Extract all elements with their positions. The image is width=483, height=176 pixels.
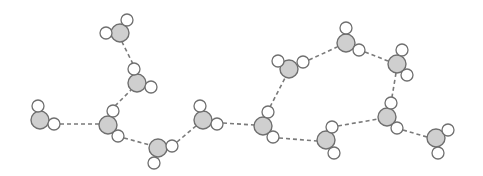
water-molecule-m12 xyxy=(317,121,340,159)
hydrogen-atom xyxy=(107,105,119,117)
water-molecule-m11 xyxy=(378,97,403,134)
hydrogen-atom xyxy=(267,131,279,143)
hydrogen-atom xyxy=(194,100,206,112)
hydrogen-atom xyxy=(353,44,365,56)
hydrogen-atom xyxy=(442,124,454,136)
oxygen-atom xyxy=(337,34,355,52)
hydrogen-atom xyxy=(262,106,274,118)
hydrogen-atom xyxy=(396,44,408,56)
hydrogen-atom xyxy=(326,121,338,133)
water-molecule-m1 xyxy=(31,100,60,130)
hydrogen-atom xyxy=(32,100,44,112)
water-molecule-m5 xyxy=(148,139,178,169)
water-molecule-m10 xyxy=(388,44,413,81)
oxygen-atom xyxy=(111,24,129,42)
oxygen-atom xyxy=(194,111,212,129)
hydrogen-bond-line xyxy=(365,52,388,61)
hydrogen-atom xyxy=(121,14,133,26)
oxygen-atom xyxy=(317,131,335,149)
hydrogen-atom xyxy=(328,147,340,159)
hydrogen-atom xyxy=(297,56,309,68)
oxygen-atom xyxy=(149,139,167,157)
hydrogen-atom xyxy=(100,27,112,39)
hydrogen-atom xyxy=(145,81,157,93)
water-molecule-m8 xyxy=(272,55,309,78)
water-molecule-m7 xyxy=(254,106,279,143)
hydrogen-atom xyxy=(211,118,223,130)
water-molecule-m4 xyxy=(100,14,133,42)
hydrogen-atom xyxy=(166,140,178,152)
water-molecule-m13 xyxy=(427,124,454,159)
water-molecule-m3 xyxy=(128,63,157,93)
hydrogen-bond-line xyxy=(223,123,254,125)
hydrogen-atom xyxy=(391,122,403,134)
hydrogen-atom xyxy=(432,147,444,159)
hydrogen-atom xyxy=(128,63,140,75)
oxygen-atom xyxy=(128,74,146,92)
water-molecule-m9 xyxy=(337,22,365,56)
water-molecule-m2 xyxy=(99,105,124,142)
hydrogen-atom xyxy=(112,130,124,142)
hydrogen-bond-line xyxy=(270,78,285,107)
hydrogen-atom xyxy=(148,157,160,169)
water-hydrogen-bond-network xyxy=(0,0,483,176)
hydrogen-atom xyxy=(272,55,284,67)
hydrogen-bond-line xyxy=(338,119,378,126)
hydrogen-bond-line xyxy=(115,90,131,106)
hydrogen-bond-line xyxy=(392,73,396,97)
oxygen-atom xyxy=(31,111,49,129)
hydrogen-bond-line xyxy=(279,138,317,141)
hydrogen-atom xyxy=(385,97,397,109)
water-molecules xyxy=(31,14,454,169)
hydrogen-atom xyxy=(401,69,413,81)
hydrogen-bond-line xyxy=(177,126,196,142)
hydrogen-bond-line xyxy=(309,47,337,60)
hydrogen-bond-line xyxy=(403,130,427,137)
water-molecule-m6 xyxy=(194,100,223,130)
hydrogen-atom xyxy=(48,118,60,130)
hydrogen-atom xyxy=(340,22,352,34)
hydrogen-bond-line xyxy=(122,42,133,64)
hydrogen-bond-line xyxy=(124,138,150,145)
